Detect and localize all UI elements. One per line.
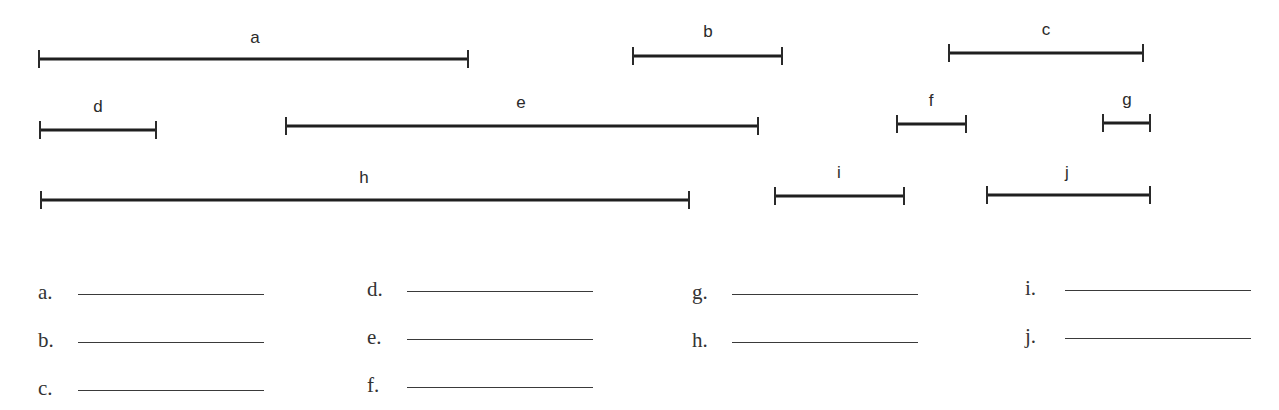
answer-blank-field[interactable] — [407, 291, 593, 292]
answer-blank-field[interactable] — [1065, 290, 1251, 291]
answer-item-a: a. — [38, 280, 264, 305]
answer-label: h. — [692, 328, 732, 353]
answer-blank-field[interactable] — [732, 294, 918, 295]
answer-item-e: e. — [367, 325, 593, 350]
answer-label: f. — [367, 373, 407, 398]
answer-label: j. — [1025, 324, 1065, 349]
answer-blank-field[interactable] — [78, 390, 264, 391]
answer-item-c: c. — [38, 376, 264, 401]
answer-label: i. — [1025, 276, 1065, 301]
answer-label: g. — [692, 280, 732, 305]
answer-item-b: b. — [38, 328, 264, 353]
answer-item-i: i. — [1025, 276, 1251, 301]
answer-label: b. — [38, 328, 78, 353]
answer-blank-field[interactable] — [732, 342, 918, 343]
answer-item-d: d. — [367, 277, 593, 302]
answer-label: a. — [38, 280, 78, 305]
answer-item-h: h. — [692, 328, 918, 353]
answer-blank-field[interactable] — [78, 294, 264, 295]
answer-label: e. — [367, 325, 407, 350]
answer-blank-field[interactable] — [407, 339, 593, 340]
answer-blank-field[interactable] — [78, 342, 264, 343]
answer-item-j: j. — [1025, 324, 1251, 349]
answer-blank-field[interactable] — [407, 387, 593, 388]
answer-section: a.b.c.d.e.f.g.h.i.j. — [0, 0, 1279, 410]
answer-item-f: f. — [367, 373, 593, 398]
answer-label: c. — [38, 376, 78, 401]
answer-blank-field[interactable] — [1065, 338, 1251, 339]
answer-item-g: g. — [692, 280, 918, 305]
answer-label: d. — [367, 277, 407, 302]
